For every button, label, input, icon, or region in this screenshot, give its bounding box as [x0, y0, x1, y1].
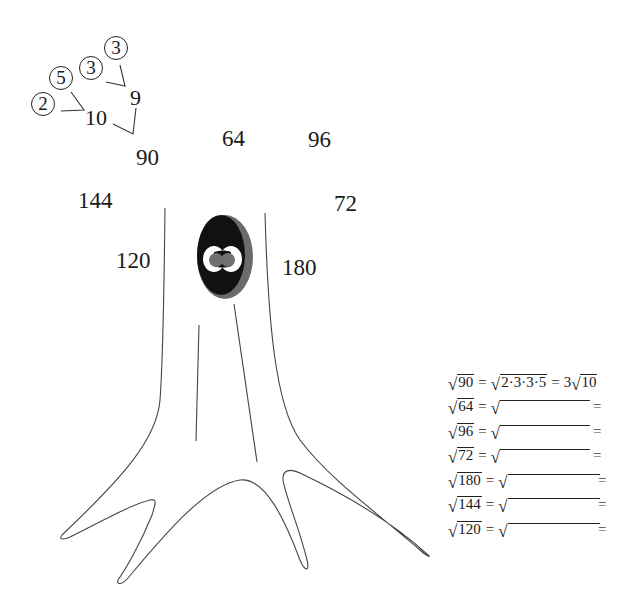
owl-pupil-right-icon — [221, 253, 235, 267]
answer-blank[interactable] — [500, 425, 590, 440]
answer-blank[interactable] — [500, 449, 590, 464]
equation-list: √90 = √2·3·3·5 = 3√10 √64 = √ = √96 = √ … — [448, 366, 628, 538]
equation-row-120: √120 = √ = — [448, 513, 628, 538]
radicand: 144 — [457, 496, 482, 513]
equals-sign: = — [486, 521, 494, 538]
result-coefficient: 3 — [564, 374, 572, 391]
tree-number-180: 180 — [282, 256, 317, 279]
tree-number-90: 90 — [136, 146, 159, 169]
radicand: 72 — [457, 447, 474, 464]
radicand: 64 — [457, 398, 474, 415]
equation-row-72: √72 = √ = — [448, 440, 628, 465]
result-radicand: 10 — [580, 374, 597, 391]
answer-blank[interactable] — [508, 474, 600, 489]
factor-node-10: 10 — [85, 107, 107, 129]
equals-sign: = — [478, 374, 486, 391]
equation-row-90: √90 = √2·3·3·5 = 3√10 — [448, 366, 628, 391]
tree-number-64: 64 — [222, 127, 245, 150]
equals-sign: = — [486, 472, 494, 489]
radicand: 120 — [457, 521, 482, 538]
radicand: 90 — [457, 374, 474, 391]
equals-sign: = — [478, 423, 486, 440]
equation-row-180: √180 = √ = — [448, 464, 628, 489]
answer-blank[interactable] — [500, 400, 590, 415]
factor-circle-3a: 3 — [79, 56, 103, 80]
equals-sign: = — [551, 374, 559, 391]
tree-number-144: 144 — [78, 189, 113, 212]
equals-sign: = — [593, 423, 601, 440]
factor-circle-2: 2 — [31, 92, 55, 116]
equation-row-144: √144 = √ = — [448, 489, 628, 514]
factor-circle-3b: 3 — [104, 36, 128, 60]
equals-sign: = — [593, 447, 601, 464]
answer-blank[interactable] — [508, 523, 600, 538]
bark-line-left — [196, 325, 199, 441]
factor-circle-5: 5 — [49, 66, 73, 90]
owl-hole-icon — [197, 215, 253, 299]
equals-sign: = — [598, 521, 606, 538]
radical-icon: √ — [448, 523, 457, 540]
factored-radicand: 2·3·3·5 — [500, 374, 547, 391]
answer-blank[interactable] — [508, 498, 600, 513]
equals-sign: = — [598, 496, 606, 513]
equals-sign: = — [478, 398, 486, 415]
equals-sign: = — [486, 496, 494, 513]
radical-icon: √ — [498, 523, 507, 540]
equals-sign: = — [598, 472, 606, 489]
radicand: 96 — [457, 423, 474, 440]
factor-node-9: 9 — [130, 87, 141, 109]
tree-number-120: 120 — [116, 249, 151, 272]
radicand: 180 — [457, 472, 482, 489]
equation-row-64: √64 = √ = — [448, 391, 628, 416]
equation-row-96: √96 = √ = — [448, 415, 628, 440]
equals-sign: = — [478, 447, 486, 464]
bark-line-right — [234, 304, 257, 462]
owl-pupil-left-icon — [209, 253, 223, 267]
equals-sign: = — [593, 398, 601, 415]
tree-number-96: 96 — [308, 128, 331, 151]
tree-number-72: 72 — [334, 192, 357, 215]
